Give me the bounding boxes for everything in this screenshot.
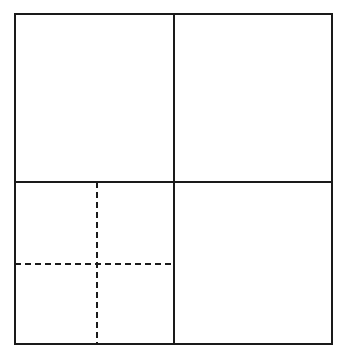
quadrant-subdivision-diagram: [0, 0, 350, 360]
figure-container: [0, 0, 350, 360]
figure-background: [0, 0, 350, 360]
